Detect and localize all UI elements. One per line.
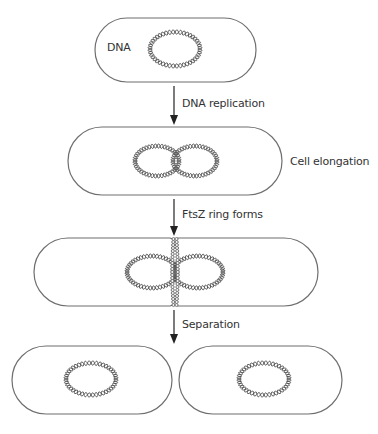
cell-elongation-label: Cell elongation (290, 155, 369, 168)
daughter-cell-right (179, 346, 342, 414)
ftsz-cell (34, 238, 318, 307)
dna-loop-icon (148, 30, 202, 68)
step-label-ftsz-ring: FtsZ ring forms (182, 208, 263, 221)
ftsz-ring-icon (171, 238, 180, 307)
dna-label: DNA (107, 41, 131, 54)
dna-loop-icon (64, 361, 118, 397)
dna-loop-icon (237, 361, 291, 397)
binary-fission-diagram: DNA DNA replication Cell elongation FtsZ… (0, 0, 378, 434)
arrow-ftsz-ring (170, 199, 178, 236)
step-label-dna-replication: DNA replication (182, 97, 265, 110)
arrow-dna-replication (170, 86, 178, 125)
arrow-separation (170, 310, 178, 344)
replicated-cell (68, 127, 282, 195)
step-label-separation: Separation (182, 318, 240, 331)
daughter-cell-left (12, 346, 172, 414)
